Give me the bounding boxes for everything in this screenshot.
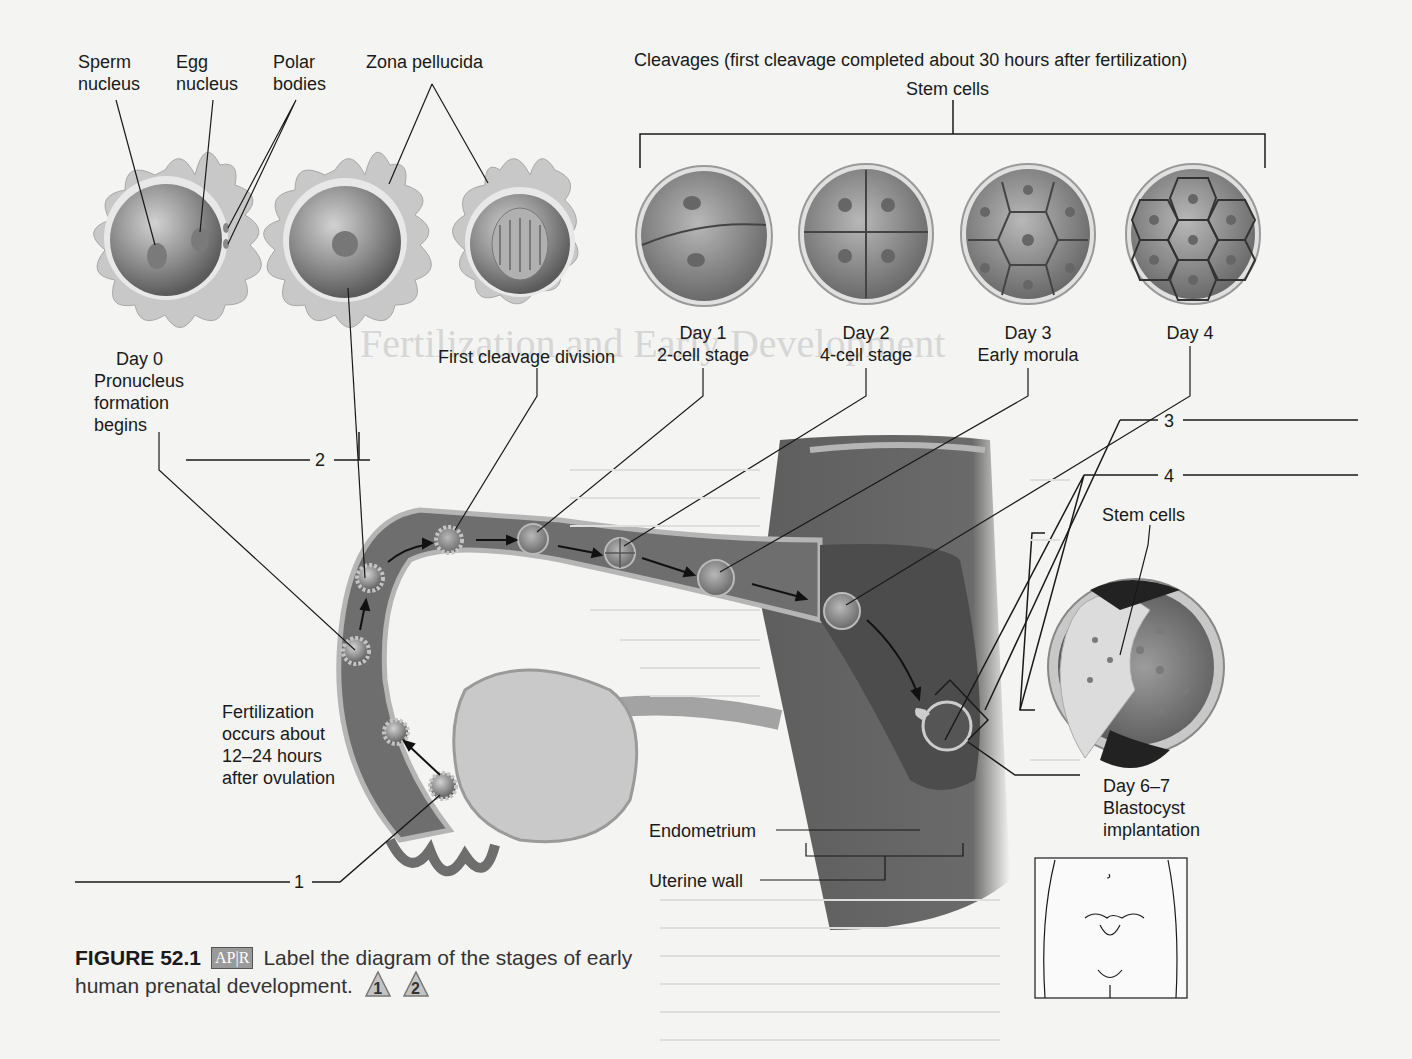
stem-cells-bracket	[640, 100, 1265, 168]
diagram-artwork	[0, 0, 1412, 1059]
blank-number-3: 3	[1164, 410, 1174, 432]
stage-day0-line2: Pronucleus	[94, 370, 214, 392]
learning-outcome-1-number: 1	[365, 976, 391, 1002]
embryo-4-cell	[799, 164, 933, 304]
blastocyst-line2: Blastocyst	[1103, 797, 1200, 819]
label-polar-line2: bodies	[273, 73, 326, 95]
label-egg-nucleus: Egg nucleus	[176, 51, 238, 95]
caption-text1: Label the diagram of the stages of early	[263, 946, 632, 969]
caption-line1: FIGURE 52.1AP|RLabel the diagram of the …	[75, 945, 632, 971]
label-blastocyst-implantation: Day 6–7 Blastocyst implantation	[1103, 775, 1200, 841]
label-polar-line1: Polar	[273, 51, 326, 73]
learning-outcome-2-number: 2	[403, 976, 429, 1002]
label-egg-line2: nucleus	[176, 73, 238, 95]
label-sperm-nucleus: Sperm nucleus	[78, 51, 140, 95]
zygote-nucleus	[264, 152, 432, 327]
stage-day1-line2: 2-cell stage	[643, 344, 763, 366]
stage-day1-line1: Day 1	[643, 322, 763, 344]
stage-day3-line2: Early morula	[968, 344, 1088, 366]
blastocyst-line1: Day 6–7	[1103, 775, 1200, 797]
figure-number: FIGURE 52.1	[75, 946, 201, 969]
embryo-early-morula	[961, 164, 1095, 304]
blank-number-2: 2	[315, 449, 325, 471]
blank-number-4: 4	[1164, 465, 1174, 487]
stage-day4: Day 4	[1130, 322, 1250, 344]
stage-day3-line1: Day 3	[968, 322, 1088, 344]
locator-inset	[1035, 858, 1187, 998]
label-stem-cells-top: Stem cells	[906, 78, 989, 100]
embryo-day4-morula	[1126, 164, 1260, 304]
fertilization-line4: after ovulation	[222, 767, 335, 789]
stage-day0-line3: formation	[94, 392, 214, 414]
label-sperm-line1: Sperm	[78, 51, 140, 73]
label-stem-cells-blastocyst: Stem cells	[1102, 504, 1185, 526]
caption-text2: human prenatal development.	[75, 974, 353, 997]
stage-day0-line1: Day 0	[94, 348, 214, 370]
fertilization-line3: 12–24 hours	[222, 745, 335, 767]
stage-day2: Day 2 4-cell stage	[806, 322, 926, 366]
label-polar-bodies: Polar bodies	[273, 51, 326, 95]
label-uterine-wall: Uterine wall	[649, 870, 743, 892]
caption-line2: human prenatal development. 1 2	[75, 971, 632, 999]
learning-outcome-1-icon[interactable]: 1	[365, 971, 391, 997]
label-cleavages: Cleavages (first cleavage completed abou…	[634, 49, 1187, 71]
stage-day2-line2: 4-cell stage	[806, 344, 926, 366]
figure-caption: FIGURE 52.1AP|RLabel the diagram of the …	[75, 945, 632, 999]
fertilization-line2: occurs about	[222, 723, 335, 745]
apr-badge-icon[interactable]: AP|R	[211, 947, 253, 969]
zygote-first-cleavage	[453, 159, 579, 304]
embryo-2-cell	[636, 166, 772, 306]
learning-outcome-2-icon[interactable]: 2	[403, 971, 429, 997]
stage-day0: Day 0 Pronucleus formation begins	[94, 348, 214, 436]
label-endometrium: Endometrium	[649, 820, 756, 842]
fertilization-line1: Fertilization	[222, 701, 335, 723]
label-zona-pellucida: Zona pellucida	[366, 51, 483, 73]
stage-day2-line1: Day 2	[806, 322, 926, 344]
stage-first-cleavage: First cleavage division	[438, 346, 615, 368]
label-sperm-line2: nucleus	[78, 73, 140, 95]
zygote-pronucleus	[94, 152, 262, 327]
label-egg-line1: Egg	[176, 51, 238, 73]
blank-number-1: 1	[294, 871, 304, 893]
stage-day0-line4: begins	[94, 414, 214, 436]
stage-day1: Day 1 2-cell stage	[643, 322, 763, 366]
stage-day4-line1: Day 4	[1130, 322, 1250, 344]
blastocyst-line3: implantation	[1103, 819, 1200, 841]
fertilization-note: Fertilization occurs about 12–24 hours a…	[222, 701, 335, 789]
blastocyst-cross-section	[1048, 525, 1224, 768]
stage-day3: Day 3 Early morula	[968, 322, 1088, 366]
